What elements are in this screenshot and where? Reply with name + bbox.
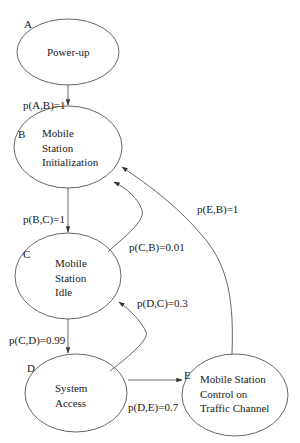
state-b-line-1: Mobile <box>42 126 98 141</box>
state-b-line-3: Initialization <box>42 155 98 170</box>
state-e-letter: E <box>184 369 191 381</box>
state-a-letter: A <box>24 18 32 30</box>
state-e-label: Mobile Station Control on Traffic Channe… <box>200 372 269 416</box>
state-b-line-2: Station <box>42 141 98 156</box>
state-e-line-2: Control on <box>200 387 269 402</box>
state-d-letter: D <box>27 362 35 374</box>
state-a-line-1: Power-up <box>47 45 90 60</box>
edge-b-c-label: p(B,C)=1 <box>23 213 65 226</box>
state-c-line-2: Station <box>55 271 87 286</box>
state-e-line-3: Traffic Channel <box>200 401 269 416</box>
edge-c-d-label: p(C,D)=0.99 <box>9 334 65 347</box>
state-c-letter: C <box>23 248 30 260</box>
state-d-line-1: System <box>55 381 87 396</box>
state-b-label: Mobile Station Initialization <box>42 126 98 170</box>
edge-d-e-label: p(D,E)=0.7 <box>128 401 178 414</box>
edge-c-b-label: p(C,B)=0.01 <box>129 241 185 254</box>
state-b-letter: B <box>18 128 25 140</box>
state-c-line-3: Idle <box>55 285 87 300</box>
state-a-label: Power-up <box>47 45 90 60</box>
state-d-line-2: Access <box>55 396 87 411</box>
state-c-label: Mobile Station Idle <box>55 256 87 300</box>
edge-a-b-label: p(A,B)=1 <box>23 99 66 112</box>
edge-d-c-label: p(D,C)=0.3 <box>137 297 188 310</box>
edge-d-c <box>110 302 146 371</box>
edge-e-b-label: p(E,B)=1 <box>197 203 238 216</box>
state-c-line-1: Mobile <box>55 256 87 271</box>
edge-e-b <box>122 167 232 354</box>
state-e-line-1: Mobile Station <box>200 372 269 387</box>
state-d-label: System Access <box>55 381 87 410</box>
